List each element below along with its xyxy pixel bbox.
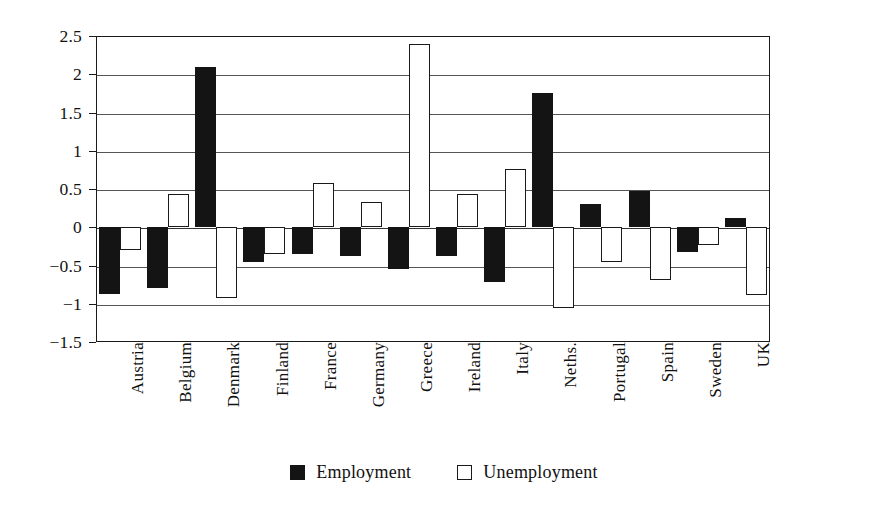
bar-group [529,36,577,342]
bar-emp-portugal [580,204,601,228]
bar-unemp-italy [505,169,526,227]
x-axis-tick-label: Neths. [561,342,581,388]
bar-emp-belgium [147,227,168,288]
bar-unemp-neths [553,227,574,307]
y-axis-tick-label: 1 [73,140,82,161]
bar-group [144,36,192,342]
y-axis-tick [89,113,96,114]
y-axis-tick [89,304,96,305]
bar-emp-finland [243,227,264,261]
x-axis-tick-label: Italy [513,342,533,375]
bar-group [337,36,385,342]
legend-label: Unemployment [483,462,597,483]
bar-group [722,36,770,342]
y-axis-tick [89,266,96,267]
bar-emp-denmark [195,67,216,228]
y-axis-tick [89,342,96,343]
bar-group [433,36,481,342]
legend-label: Employment [316,462,411,483]
bar-emp-uk [725,218,746,227]
x-axis-tick-label: France [321,342,341,390]
bar-unemp-belgium [168,194,189,227]
bar-unemp-spain [650,227,671,280]
bar-group [577,36,625,342]
bar-group [289,36,337,342]
bar-unemp-germany [361,202,382,227]
y-axis-tick-label: 0.5 [60,179,82,200]
x-axis-tick-label: Greece [417,342,437,392]
y-axis-tick [89,74,96,75]
y-axis-tick-label: 1.5 [60,102,82,123]
x-axis-tick-label: Belgium [176,342,196,403]
bar-unemp-denmark [216,227,237,298]
bar-unemp-ireland [457,194,478,227]
bars-layer [96,36,770,342]
x-axis-tick-label: Sweden [706,342,726,398]
legend-item: Unemployment [457,462,597,483]
bar-group [96,36,144,342]
bar-emp-austria [99,227,120,294]
bar-group [192,36,240,342]
legend-swatch-icon [457,465,472,480]
y-axis-tick [89,189,96,190]
x-axis-tick-label: Germany [369,342,389,407]
bar-emp-greece [388,227,409,269]
bar-group [674,36,722,342]
x-axis-tick-label: Portugal [610,342,630,402]
bar-unemp-sweden [698,227,719,245]
bar-unemp-france [313,183,334,227]
bar-emp-ireland [436,227,457,256]
bar-group [240,36,288,342]
bar-emp-france [292,227,313,254]
bar-emp-sweden [677,227,698,251]
y-axis-tick [89,227,96,228]
chart-legend: EmploymentUnemployment [0,462,888,483]
y-axis-tick-label: 2 [73,64,82,85]
x-axis-tick-label: UK [754,342,774,367]
y-axis-tick-label: 2.5 [60,26,82,47]
y-axis-tick-label: −0.5 [49,255,82,276]
bar-group [481,36,529,342]
bar-group [626,36,674,342]
x-axis-tick-label: Denmark [224,342,244,407]
y-axis-tick [89,151,96,152]
x-axis-tick-label: Ireland [465,342,485,392]
bar-emp-neths [532,93,553,227]
bar-emp-spain [629,191,650,228]
y-axis-tick-label: −1.5 [49,332,82,353]
y-axis-tick-label: 0 [73,217,82,238]
legend-item: Employment [290,462,411,483]
x-axis-labels: AustriaBelgiumDenmarkFinlandFranceGerman… [96,342,770,452]
x-axis-tick-label: Spain [658,342,678,382]
y-axis-tick-label: −1 [63,293,82,314]
bar-unemp-greece [409,44,430,228]
y-axis-tick [89,36,96,37]
x-axis-tick-label: Finland [273,342,293,396]
bar-unemp-portugal [601,227,622,262]
bar-unemp-austria [120,227,141,250]
x-axis-tick-label: Austria [128,342,148,394]
bar-emp-germany [340,227,361,256]
bar-group [385,36,433,342]
bar-unemp-uk [746,227,767,294]
bar-unemp-finland [264,227,285,254]
chart-figure: 2.521.510.50−0.5−1−1.5 AustriaBelgiumDen… [0,0,888,506]
legend-swatch-icon [290,465,305,480]
bar-emp-italy [484,227,505,282]
